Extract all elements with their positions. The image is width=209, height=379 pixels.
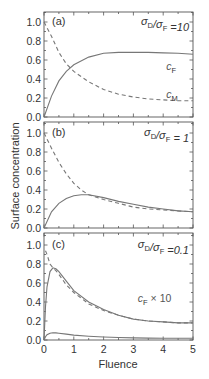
y-tick-label: 0.6 <box>26 277 41 289</box>
panel-label: (c) <box>52 238 65 250</box>
y-tick-label: 0.4 <box>26 296 41 308</box>
ratio-annotation: σD/σF =10 <box>141 15 190 33</box>
x-tick-label: 5 <box>190 343 196 355</box>
series-cf <box>44 195 193 228</box>
panel-label: (a) <box>52 15 65 27</box>
panel-a: 0.00.20.40.60.81.0(a)σD/σF =10cFcM <box>26 12 193 123</box>
y-tick-label: 0.4 <box>26 73 41 85</box>
y-tick-label: 0.8 <box>26 258 41 270</box>
y-tick-label: 0.8 <box>26 35 41 47</box>
x-tick-label: 4 <box>160 343 166 355</box>
y-tick-label: 1.0 <box>26 239 41 251</box>
figure: 0.00.20.40.60.81.0(a)σD/σF =10cFcM0.00.2… <box>0 0 209 379</box>
y-tick-label: 0.8 <box>26 146 41 158</box>
x-tick-label: 2 <box>101 343 107 355</box>
series-cm <box>46 251 194 323</box>
y-tick-label: 0.0 <box>26 334 41 346</box>
ratio-annotation: σD/σF = 1 <box>144 126 189 144</box>
curve-label: cF <box>166 60 176 75</box>
y-tick-label: 1.0 <box>26 16 41 28</box>
y-axis-label: Surface concentration <box>9 122 21 229</box>
x-axis-label: Fluence <box>98 358 137 370</box>
y-tick-label: 0.0 <box>26 222 41 234</box>
y-tick-label: 0.0 <box>26 111 41 123</box>
ratio-annotation: σD/σF =0.1 <box>138 238 189 256</box>
y-tick-label: 1.0 <box>26 127 41 139</box>
x-tick-label: 1 <box>71 343 77 355</box>
panel-c: 0.00.20.40.60.81.0012345(c)σD/σF =0.1cF … <box>26 233 196 355</box>
y-tick-label: 0.6 <box>26 54 41 66</box>
curve-label: cM <box>166 88 178 103</box>
panel-b: 0.00.20.40.60.81.0(b)σD/σF = 1 <box>26 122 193 234</box>
y-tick-label: 0.2 <box>26 315 41 327</box>
x-tick-label: 0 <box>41 343 47 355</box>
y-tick-label: 0.2 <box>26 92 41 104</box>
y-tick-label: 0.6 <box>26 165 41 177</box>
y-tick-label: 0.2 <box>26 203 41 215</box>
x-tick-label: 3 <box>130 343 136 355</box>
panels: 0.00.20.40.60.81.0(a)σD/σF =10cFcM0.00.2… <box>26 12 196 355</box>
series-cm <box>44 133 193 212</box>
y-tick-label: 0.4 <box>26 184 41 196</box>
curve-label: cF × 10 <box>138 292 172 307</box>
panel-label: (b) <box>52 126 65 138</box>
